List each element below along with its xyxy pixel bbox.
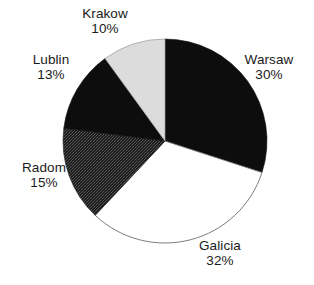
pie-label-warsaw-name: Warsaw (228, 52, 310, 67)
pie-label-lublin: Lublin 13% (12, 52, 90, 82)
pie-label-radom: Radom 15% (2, 160, 86, 190)
pie-label-krakow: Krakow 10% (62, 6, 148, 36)
pie-label-radom-name: Radom (2, 160, 86, 175)
pie-label-lublin-percent: 13% (12, 67, 90, 82)
pie-label-radom-percent: 15% (2, 175, 86, 190)
pie-label-krakow-percent: 10% (62, 21, 148, 36)
pie-chart: Krakow 10% Warsaw 30% Lublin 13% Radom 1… (0, 0, 314, 285)
pie-chart-canvas (0, 0, 314, 285)
pie-label-galicia: Galicia 32% (178, 238, 262, 268)
pie-label-warsaw-percent: 30% (228, 67, 310, 82)
pie-label-krakow-name: Krakow (62, 6, 148, 21)
pie-label-galicia-name: Galicia (178, 238, 262, 253)
pie-label-lublin-name: Lublin (12, 52, 90, 67)
pie-label-galicia-percent: 32% (178, 253, 262, 268)
pie-label-warsaw: Warsaw 30% (228, 52, 310, 82)
